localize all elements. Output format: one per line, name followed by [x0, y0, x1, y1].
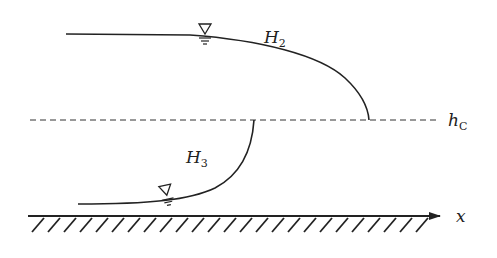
hatch-mark: [400, 218, 412, 232]
hatch-mark: [352, 218, 364, 232]
h3-curve: [78, 120, 254, 204]
h3-label: H3: [185, 147, 208, 170]
hatch-mark: [288, 218, 300, 232]
hatch-mark: [32, 218, 44, 232]
hatch-mark: [304, 218, 316, 232]
hatch-mark: [224, 218, 236, 232]
hatch-mark: [272, 218, 284, 232]
hatch-mark: [64, 218, 76, 232]
hatch-mark: [384, 218, 396, 232]
h2-label: H2: [263, 27, 286, 50]
hatch-mark: [96, 218, 108, 232]
profile-diagram: H2 hC H3 x: [0, 0, 497, 258]
hatch-mark: [112, 218, 124, 232]
hatch-mark: [336, 218, 348, 232]
hatch-mark: [80, 218, 92, 232]
hatch-mark: [320, 218, 332, 232]
hatch-mark: [416, 218, 428, 232]
h2-curve: [66, 34, 369, 120]
hatch-mark: [368, 218, 380, 232]
critical-depth-label: hC: [448, 110, 467, 133]
x-axis-label: x: [456, 206, 466, 226]
hatch-mark: [208, 218, 220, 232]
hatch-mark: [176, 218, 188, 232]
hatch-mark: [160, 218, 172, 232]
hatch-mark: [240, 218, 252, 232]
hatch-mark: [144, 218, 156, 232]
water-surface-icon: [199, 24, 211, 44]
diagram-canvas: H2 hC H3 x: [0, 0, 497, 258]
bed-hatching: [32, 218, 428, 232]
hatch-mark: [256, 218, 268, 232]
hatch-mark: [192, 218, 204, 232]
hatch-mark: [128, 218, 140, 232]
water-surface-icon: [159, 184, 175, 206]
hatch-mark: [48, 218, 60, 232]
